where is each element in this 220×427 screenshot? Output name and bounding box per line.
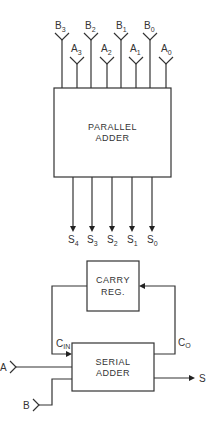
svg-text:A2: A2 (101, 43, 112, 56)
svg-text:S0: S0 (147, 234, 158, 247)
adder-diagram: B3 A3 B2 A2 B1 A1 (0, 0, 220, 427)
input-b-serial: B (23, 379, 72, 411)
svg-text:S2: S2 (107, 234, 118, 247)
input-a-serial: A (0, 361, 72, 373)
output-s-serial: S (154, 373, 206, 384)
input-b2: B2 (84, 20, 98, 88)
input-a0: A0 (159, 43, 173, 88)
input-a2: A2 (100, 43, 114, 88)
svg-text:A1: A1 (130, 43, 141, 56)
svg-text:ADDER: ADDER (95, 133, 129, 143)
carry-register-block: CARRY REG. (87, 261, 139, 311)
svg-text:B: B (23, 400, 30, 411)
input-b0: B0 (143, 20, 157, 88)
svg-text:ADDER: ADDER (96, 368, 130, 378)
svg-text:PARALLEL: PARALLEL (88, 122, 137, 132)
svg-text:B1: B1 (116, 20, 127, 33)
svg-text:A0: A0 (161, 43, 172, 56)
svg-text:SERIAL: SERIAL (95, 357, 130, 367)
svg-text:A3: A3 (71, 43, 82, 56)
svg-text:B3: B3 (55, 20, 66, 33)
parallel-adder-inputs: B3 A3 B2 A2 B1 A1 (55, 20, 173, 88)
svg-text:S3: S3 (87, 234, 98, 247)
svg-text:REG.: REG. (101, 287, 125, 297)
input-b3: B3 (55, 20, 69, 88)
svg-text:B2: B2 (85, 20, 96, 33)
parallel-adder-block: PARALLEL ADDER (54, 88, 171, 177)
output-s2: S2 (107, 177, 118, 247)
svg-text:S: S (199, 373, 206, 384)
svg-text:A: A (0, 362, 7, 373)
output-s4: S4 (68, 177, 79, 247)
svg-text:CARRY: CARRY (96, 275, 130, 285)
serial-adder-block: SERIAL ADDER (72, 343, 154, 391)
output-s3: S3 (87, 177, 98, 247)
input-a3: A3 (70, 43, 84, 88)
svg-text:S4: S4 (68, 234, 79, 247)
output-s1: S1 (127, 177, 138, 247)
parallel-adder-outputs: S4 S3 S2 S1 S0 (68, 177, 158, 247)
input-a1: A1 (129, 43, 143, 88)
svg-text:CIN: CIN (56, 338, 70, 350)
svg-text:S1: S1 (127, 234, 138, 247)
input-b1: B1 (114, 20, 128, 88)
svg-text:B0: B0 (144, 20, 155, 33)
svg-text:CO: CO (178, 337, 191, 349)
output-s0: S0 (147, 177, 158, 247)
